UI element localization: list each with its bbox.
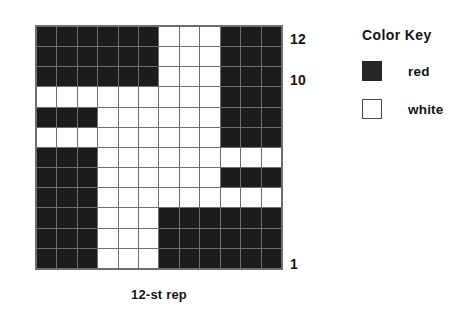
grid-cell xyxy=(37,108,56,127)
grid-cell xyxy=(98,67,117,86)
grid-cell xyxy=(180,229,199,248)
grid-cell xyxy=(159,87,178,106)
grid-cell xyxy=(159,249,178,268)
colorwork-chart xyxy=(35,25,283,270)
grid-cell xyxy=(139,168,158,187)
grid-cell xyxy=(78,148,97,167)
legend-item-label-white: white xyxy=(408,102,444,117)
grid-cell xyxy=(262,87,281,106)
grid-cell xyxy=(57,208,76,227)
grid-cell xyxy=(78,67,97,86)
grid-cell xyxy=(57,128,76,147)
legend-item-red: red xyxy=(362,60,460,82)
grid-cell xyxy=(37,47,56,66)
grid-cell xyxy=(98,148,117,167)
grid-cell xyxy=(37,148,56,167)
grid-cell xyxy=(37,208,56,227)
grid-cell xyxy=(139,128,158,147)
grid-cell xyxy=(262,168,281,187)
grid-cell xyxy=(200,67,219,86)
grid-cell xyxy=(119,229,138,248)
grid-cell xyxy=(241,108,260,127)
grid-cell xyxy=(159,148,178,167)
grid-cell xyxy=(78,249,97,268)
grid-cell xyxy=(98,87,117,106)
grid-cell xyxy=(180,47,199,66)
grid-cell xyxy=(180,188,199,207)
grid-cell xyxy=(262,47,281,66)
grid-cell xyxy=(98,108,117,127)
legend-item-label-red: red xyxy=(408,64,430,79)
grid-cell xyxy=(119,168,138,187)
grid-cell xyxy=(57,249,76,268)
chart-page: 12 10 1 12-st rep Color Key red white xyxy=(0,0,460,328)
grid-cell xyxy=(241,47,260,66)
grid-cell xyxy=(78,168,97,187)
grid-cell xyxy=(119,128,138,147)
grid-cell xyxy=(119,108,138,127)
grid-cell xyxy=(200,27,219,46)
grid-cell xyxy=(119,188,138,207)
grid-cell xyxy=(57,27,76,46)
grid-cell xyxy=(37,188,56,207)
grid-cell xyxy=(180,249,199,268)
grid-cell xyxy=(57,87,76,106)
grid-cell xyxy=(262,67,281,86)
grid-cell xyxy=(57,47,76,66)
grid-cell xyxy=(37,249,56,268)
grid-cell xyxy=(180,208,199,227)
grid-cell xyxy=(262,208,281,227)
grid-cell xyxy=(37,67,56,86)
grid-cell xyxy=(262,188,281,207)
grid-cell xyxy=(119,208,138,227)
grid-cell xyxy=(200,188,219,207)
chart-caption: 12-st rep xyxy=(35,287,283,302)
grid-cell xyxy=(98,208,117,227)
grid-cell xyxy=(57,188,76,207)
grid-cell xyxy=(241,249,260,268)
grid-cell xyxy=(139,87,158,106)
grid-cell xyxy=(241,27,260,46)
grid-cell xyxy=(139,188,158,207)
row-tick-label-10: 10 xyxy=(290,73,306,87)
grid-cell xyxy=(98,188,117,207)
grid-cell xyxy=(98,249,117,268)
grid-cell xyxy=(262,27,281,46)
grid-cell xyxy=(241,128,260,147)
grid-cell xyxy=(159,168,178,187)
grid-cell xyxy=(37,27,56,46)
grid-cell xyxy=(57,108,76,127)
grid-cell xyxy=(37,87,56,106)
grid-cell xyxy=(119,67,138,86)
grid-cell xyxy=(159,47,178,66)
grid-cell xyxy=(78,108,97,127)
grid-cell xyxy=(221,148,240,167)
grid-cell xyxy=(262,128,281,147)
grid-cell xyxy=(57,229,76,248)
grid-cell xyxy=(78,208,97,227)
grid-cell xyxy=(180,128,199,147)
grid-cell xyxy=(159,128,178,147)
grid-cell xyxy=(200,128,219,147)
grid-cell xyxy=(200,168,219,187)
grid-cell xyxy=(200,47,219,66)
grid-cell xyxy=(139,47,158,66)
grid-cell xyxy=(180,87,199,106)
grid-cell xyxy=(78,128,97,147)
grid-cell xyxy=(119,148,138,167)
grid-cell xyxy=(221,87,240,106)
grid-cell xyxy=(78,229,97,248)
stitch-grid xyxy=(35,25,283,270)
grid-cell xyxy=(241,87,260,106)
grid-cell xyxy=(119,249,138,268)
grid-cell xyxy=(57,148,76,167)
white-swatch-icon xyxy=(362,99,382,119)
grid-cell xyxy=(119,87,138,106)
grid-cell xyxy=(159,188,178,207)
grid-cell xyxy=(98,27,117,46)
grid-cell xyxy=(119,27,138,46)
grid-cell xyxy=(139,148,158,167)
grid-cell xyxy=(200,229,219,248)
grid-cell xyxy=(119,47,138,66)
grid-cell xyxy=(98,128,117,147)
